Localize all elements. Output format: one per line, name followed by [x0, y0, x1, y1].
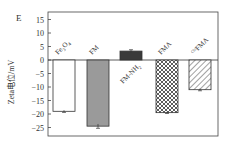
category-label: FMA: [157, 40, 173, 56]
y-tick-label: −15: [31, 97, 44, 106]
y-tick-label: 10: [36, 29, 44, 38]
y-tick-label: 15: [36, 16, 44, 25]
category-label: Fe3O4: [54, 38, 73, 57]
y-tick-label: −5: [35, 70, 44, 79]
bar-fe3o4: [53, 60, 75, 111]
y-tick-label: −10: [31, 83, 44, 92]
y-axis-label: Zeta电位/mV: [6, 60, 16, 105]
bar-chart: E 151050−5−10−15−20−25 Zeta电位/mV Fe3O4FM…: [0, 0, 235, 158]
y-tick-label: −20: [31, 110, 44, 119]
y-tick-label: −25: [31, 124, 44, 133]
panel-label: E: [16, 13, 22, 23]
category-label: FM-NH2: [119, 62, 143, 86]
y-tick-label: 0: [40, 56, 44, 65]
bars: Fe3O4FMFM-NH2FMACblFMA: [53, 36, 211, 128]
category-label: FM: [88, 43, 101, 56]
bar-fm: [87, 60, 109, 126]
bar-cbl-fma: [189, 60, 211, 90]
bar-fma: [156, 60, 178, 113]
y-tick-label: 5: [40, 43, 44, 52]
category-label: CblFMA: [190, 36, 210, 56]
